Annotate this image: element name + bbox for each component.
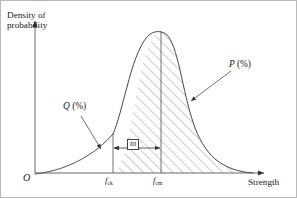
- tsigma-dimension-label: tσ: [127, 139, 139, 150]
- x-axis-title: Strength: [248, 177, 279, 187]
- y-axis-title: Density of probability: [7, 10, 47, 31]
- origin-label: O: [23, 172, 30, 183]
- density-curve-left-tail: [35, 134, 113, 174]
- callout-p: P (%): [229, 59, 251, 70]
- callout-q: Q (%): [63, 101, 86, 112]
- probability-density-figure: Density of probability Strength O fck fc…: [0, 0, 297, 198]
- y-axis-title-line2: probability: [7, 20, 47, 30]
- fcm-subscript: cm: [155, 180, 162, 186]
- y-axis-title-line1: Density of: [7, 10, 47, 20]
- q-callout-leader: [81, 116, 101, 149]
- fck-subscript: ck: [107, 180, 112, 186]
- x-tick-label-fck: fck: [105, 176, 113, 186]
- callout-p-symbol: P: [229, 59, 235, 69]
- callout-p-unit: (%): [237, 59, 251, 69]
- callout-q-symbol: Q: [63, 101, 70, 111]
- hatched-area: [106, 26, 261, 176]
- p-callout-leader: [191, 71, 231, 101]
- x-tick-label-fcm: fcm: [153, 176, 162, 186]
- callout-q-unit: (%): [72, 101, 86, 111]
